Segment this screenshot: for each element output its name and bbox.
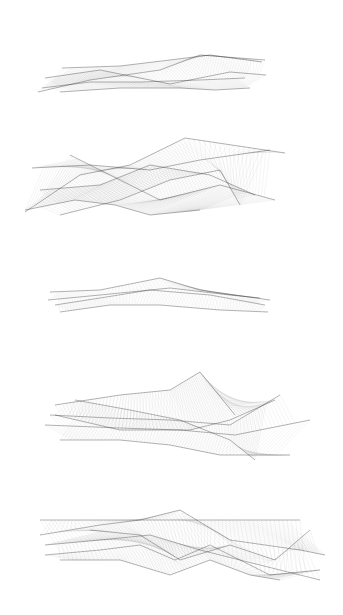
ribbon-3 — [48, 278, 270, 312]
ribbon-4 — [45, 372, 310, 460]
ribbon-5 — [40, 510, 325, 580]
ribbon-artwork — [0, 0, 343, 615]
generative-art-canvas — [0, 0, 343, 615]
ribbon-2 — [25, 138, 285, 215]
ribbon-1 — [38, 55, 266, 92]
